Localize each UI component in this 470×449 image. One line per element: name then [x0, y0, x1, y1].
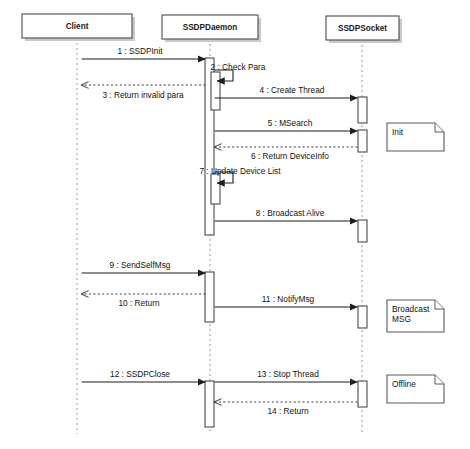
message-label-9: 9 : SendSelfMsg	[110, 260, 171, 270]
participant-label-ssdpdaemon: SSDPDaemon	[183, 23, 238, 32]
activation-bar-socket-notify	[358, 306, 367, 328]
message-label-5: 5 : MSearch	[268, 118, 313, 128]
sequence-diagram-svg: ClientSSDPDaemonSSDPSocket 1 : SSDPInit2…	[0, 0, 470, 449]
note-broadcast-label-1: MSG	[392, 314, 411, 324]
lifeline-headers-group: ClientSSDPDaemonSSDPSocket	[22, 14, 402, 43]
note-broadcast: BroadcastMSG	[387, 300, 444, 332]
participant-client[interactable]: Client	[22, 14, 135, 41]
message-label-11: 11 : NotifyMsg	[262, 294, 315, 304]
message-13[interactable]: 13 : Stop Thread	[215, 369, 358, 382]
participant-label-ssdpsocket: SSDPSocket	[338, 24, 387, 33]
note-offline-fold	[435, 375, 444, 384]
activation-bar-daemon-update	[211, 174, 220, 204]
message-14[interactable]: 14 : Return	[215, 402, 358, 416]
activation-bar-socket-alive	[358, 220, 367, 242]
message-3[interactable]: 3 : Return invalid para	[82, 85, 206, 100]
note-init-label-0: Init	[392, 127, 404, 137]
note-init: Init	[387, 123, 444, 151]
activation-bar-daemon-close	[205, 381, 214, 427]
note-offline: Offline	[387, 375, 444, 403]
message-label-8: 8 : Broadcast Alive	[256, 208, 325, 218]
activation-bar-socket-create	[358, 97, 367, 123]
activation-bar-socket-stop	[358, 381, 367, 407]
note-broadcast-fold	[435, 300, 444, 309]
message-label-12: 12 : SSDPClose	[110, 369, 170, 379]
message-6[interactable]: 6 : Return DeviceInfo	[215, 147, 358, 161]
participant-ssdpdaemon[interactable]: SSDPDaemon	[162, 15, 261, 42]
activation-bar-socket-msearch	[358, 130, 367, 152]
activation-bar-daemon-notify	[205, 272, 214, 322]
message-label-13: 13 : Stop Thread	[257, 369, 319, 379]
participant-ssdpsocket[interactable]: SSDPSocket	[326, 16, 402, 43]
message-10[interactable]: 10 : Return	[82, 294, 206, 308]
message-label-1: 1 : SSDPInit	[117, 46, 163, 56]
activation-bar-daemon-check	[211, 72, 220, 110]
message-9[interactable]: 9 : SendSelfMsg	[82, 260, 206, 273]
message-label-4: 4 : Create Thread	[260, 85, 325, 95]
notes-group: InitBroadcastMSGOffline	[387, 123, 444, 403]
message-8[interactable]: 8 : Broadcast Alive	[215, 208, 358, 221]
message-label-10: 10 : Return	[118, 298, 159, 308]
message-label-7: 7 : Update Device List	[199, 166, 281, 176]
message-5[interactable]: 5 : MSearch	[215, 118, 358, 131]
message-1[interactable]: 1 : SSDPInit	[82, 46, 206, 59]
message-4[interactable]: 4 : Create Thread	[215, 85, 358, 98]
message-label-2: 2 : Check Para	[211, 62, 266, 72]
note-offline-label-0: Offline	[392, 379, 416, 389]
message-label-3: 3 : Return invalid para	[102, 90, 184, 100]
sequence-diagram-canvas: ClientSSDPDaemonSSDPSocket 1 : SSDPInit2…	[0, 0, 470, 449]
note-broadcast-label-0: Broadcast	[392, 304, 430, 314]
message-label-6: 6 : Return DeviceInfo	[251, 151, 329, 161]
message-12[interactable]: 12 : SSDPClose	[82, 369, 206, 382]
message-11[interactable]: 11 : NotifyMsg	[215, 294, 358, 307]
message-label-14: 14 : Return	[267, 406, 308, 416]
participant-label-client: Client	[66, 22, 89, 31]
